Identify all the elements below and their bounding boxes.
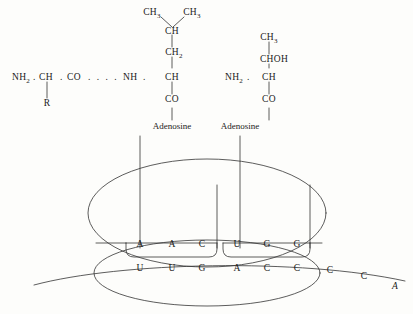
threonine-choh: CHOH [260,55,288,65]
mrna-base-6: C [327,265,333,275]
threonine-alpha-ch: CH [262,73,276,83]
peptide-co: CO [67,73,81,83]
threonine-dot: . [247,73,250,83]
peptide-nh2: NH2 [12,73,30,85]
peptide-side-group-r: R [44,99,51,109]
trna-left-base-0: A [137,239,144,249]
adenosine-label-threonine: Adenosine [221,121,260,131]
trna-right-base-1: G [264,239,271,249]
peptide-ellipsis: . . . . [88,73,119,83]
mrna-base-5: C [294,263,300,273]
diagram-canvas: NH2 . CH . CO . . . . NH . CH R CH3 CH3 … [0,0,413,314]
mrna-base-0: U [137,263,144,273]
peptide-dot-2: . [60,73,63,83]
mrna-strand [34,266,405,285]
peptide-ch-1: CH [39,73,53,83]
leucine-ch3-left: CH3 [143,8,161,20]
leucine-alpha-ch: CH [165,73,179,83]
mrna-base-1: U [169,263,176,273]
peptide-dot-1: . [33,73,36,83]
trna-left-base-2: C [199,239,205,249]
mrna-base-2: G [199,263,206,273]
leucine-ch2: CH2 [165,48,183,60]
threonine-co: CO [262,95,276,105]
diagram-line-art [0,0,413,314]
leucine-ch3-right: CH3 [183,8,201,20]
threonine-nh2: NH2 [225,73,243,85]
trna-right-base-0: U [234,239,241,249]
threonine-ch3: CH3 [260,33,278,45]
trna-left-base-1: A [169,239,176,249]
mrna-base-3: A [234,263,241,273]
peptide-dot-3: . [143,73,146,83]
leucine-co: CO [165,95,179,105]
ribosome-small-subunit [94,240,320,306]
mrna-base-7: C [361,271,367,281]
adenosine-label-leucine: Adenosine [153,121,192,131]
trna-right-base-2: G [294,239,301,249]
mrna-base-8: A [392,281,398,291]
leucine-ch: CH [165,27,179,37]
mrna-base-4: C [264,263,270,273]
peptide-nh: NH [123,73,137,83]
